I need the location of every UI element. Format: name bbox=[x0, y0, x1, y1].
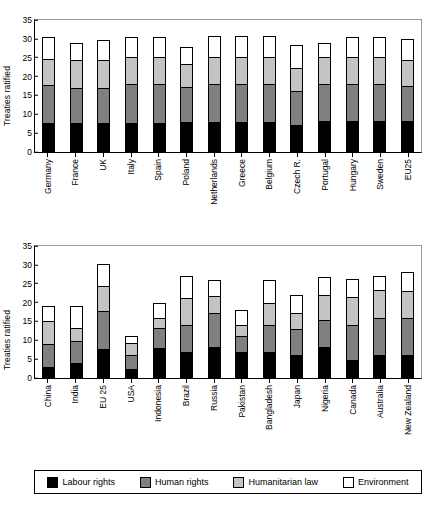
plot-area-bottom: 05101520253035 bbox=[34, 245, 422, 379]
bar-segment-labour-rights bbox=[373, 355, 386, 378]
bar-segment-environment bbox=[318, 277, 331, 295]
bar-segment-labour-rights bbox=[180, 352, 193, 378]
bar-column bbox=[118, 20, 146, 152]
x-axis-tick bbox=[145, 379, 173, 383]
stacked-bar bbox=[318, 277, 331, 378]
bar-segment-humanitarian-law bbox=[373, 57, 386, 85]
x-axis-label-text: Bangladesh bbox=[265, 385, 274, 430]
bar-column bbox=[311, 246, 339, 378]
legend-swatch bbox=[343, 477, 354, 488]
bar-segment-human-rights bbox=[125, 84, 138, 122]
bar-segment-labour-rights bbox=[208, 347, 221, 378]
bar-segment-environment bbox=[290, 45, 303, 68]
bar-segment-human-rights bbox=[235, 84, 248, 122]
y-axis-tick: 20 bbox=[23, 298, 35, 307]
bar-segment-labour-rights bbox=[153, 348, 166, 378]
x-axis-label-text: EU25 bbox=[404, 159, 413, 180]
y-axis-tick: 35 bbox=[23, 16, 35, 25]
stacked-bar bbox=[42, 37, 55, 152]
x-axis-label: India bbox=[62, 385, 90, 435]
bar-segment-labour-rights bbox=[97, 123, 110, 152]
stacked-bar bbox=[42, 306, 55, 378]
x-axis-tick bbox=[200, 379, 228, 383]
bar-group-top bbox=[35, 20, 421, 152]
x-axis-label-text: Pakistan bbox=[238, 385, 247, 418]
bar-segment-labour-rights bbox=[42, 367, 55, 378]
x-axis-label: Nigeria bbox=[311, 385, 339, 435]
bar-column bbox=[283, 246, 311, 378]
bar-segment-environment bbox=[42, 37, 55, 58]
stacked-bar bbox=[318, 43, 331, 152]
bar-segment-environment bbox=[235, 310, 248, 325]
bar-segment-human-rights bbox=[208, 84, 221, 122]
bar-segment-human-rights bbox=[235, 336, 248, 352]
x-axis-tick bbox=[89, 153, 117, 157]
stacked-bar bbox=[153, 37, 166, 152]
stacked-bar bbox=[70, 306, 83, 378]
bar-segment-humanitarian-law bbox=[180, 298, 193, 324]
x-axis-label-text: Belgium bbox=[265, 159, 274, 190]
x-axis-label: Portugal bbox=[311, 159, 339, 205]
bar-segment-humanitarian-law bbox=[70, 328, 83, 341]
bar-column bbox=[63, 20, 91, 152]
stacked-bar bbox=[373, 37, 386, 152]
bar-segment-humanitarian-law bbox=[290, 68, 303, 91]
x-axis-tick bbox=[34, 379, 62, 383]
bar-segment-environment bbox=[208, 36, 221, 57]
bar-segment-humanitarian-law bbox=[401, 60, 414, 85]
bar-segment-human-rights bbox=[180, 325, 193, 352]
x-axis-label: Belgium bbox=[256, 159, 284, 205]
y-axis-tick: 10 bbox=[23, 336, 35, 345]
x-axis-tick bbox=[200, 153, 228, 157]
bar-segment-humanitarian-law bbox=[42, 321, 55, 344]
y-axis-tick: 25 bbox=[23, 279, 35, 288]
bar-segment-humanitarian-law bbox=[97, 60, 110, 88]
stacked-bar bbox=[125, 37, 138, 152]
bar-segment-humanitarian-law bbox=[263, 303, 276, 326]
bar-column bbox=[311, 20, 339, 152]
bar-segment-environment bbox=[70, 43, 83, 60]
bar-segment-human-rights bbox=[290, 329, 303, 355]
bar-segment-environment bbox=[318, 43, 331, 57]
x-axis-label-text: Indonesia bbox=[154, 385, 163, 422]
bar-segment-humanitarian-law bbox=[153, 318, 166, 328]
legend-label: Environment bbox=[358, 477, 409, 487]
stacked-bar bbox=[346, 37, 359, 152]
y-axis-label-top: Treaties ratified bbox=[2, 28, 12, 126]
bar-column bbox=[200, 20, 228, 152]
bar-group-bottom bbox=[35, 246, 421, 378]
stacked-bar bbox=[125, 336, 138, 378]
legend-label: Labour rights bbox=[62, 477, 115, 487]
x-axis-tick bbox=[311, 379, 339, 383]
x-axis-label-text: Greece bbox=[238, 159, 247, 187]
bar-segment-environment bbox=[346, 279, 359, 297]
bar-column bbox=[63, 246, 91, 378]
bar-segment-human-rights bbox=[208, 313, 221, 347]
bar-segment-human-rights bbox=[318, 84, 331, 121]
bar-column bbox=[366, 20, 394, 152]
bar-segment-labour-rights bbox=[401, 355, 414, 378]
legend-swatch bbox=[140, 477, 151, 488]
x-axis-label: Germany bbox=[34, 159, 62, 205]
bar-segment-humanitarian-law bbox=[373, 290, 386, 318]
legend-label: Humanitarian law bbox=[248, 477, 318, 487]
legend-label: Human rights bbox=[155, 477, 209, 487]
x-axis-label-text: UK bbox=[99, 159, 108, 171]
bar-column bbox=[256, 246, 284, 378]
legend-item-human-rights: Human rights bbox=[140, 477, 209, 488]
bar-segment-labour-rights bbox=[235, 352, 248, 378]
x-axis-tick bbox=[117, 153, 145, 157]
stacked-bar bbox=[235, 36, 248, 152]
x-axis-label-text: New Zealand bbox=[404, 385, 413, 435]
x-axis-tick bbox=[283, 379, 311, 383]
x-axis-label-text: Poland bbox=[182, 159, 191, 185]
x-axis-label: Sweden bbox=[367, 159, 395, 205]
stacked-bar bbox=[153, 303, 166, 378]
x-axis-label-text: Australia bbox=[376, 385, 385, 418]
bar-column bbox=[228, 20, 256, 152]
bar-segment-humanitarian-law bbox=[180, 64, 193, 87]
x-axis-label: Pakistan bbox=[228, 385, 256, 435]
x-axis-label: Hungary bbox=[339, 159, 367, 205]
x-axis-label-text: Germany bbox=[44, 159, 53, 194]
bar-segment-human-rights bbox=[42, 344, 55, 367]
